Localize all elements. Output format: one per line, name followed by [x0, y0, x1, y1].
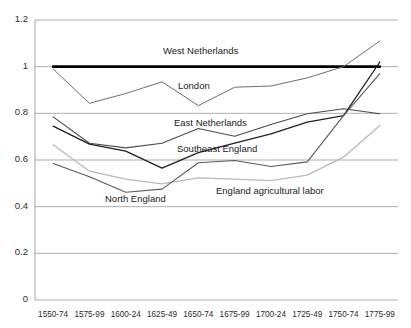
y-axis-tick-label: 1.2	[0, 14, 28, 24]
line-chart: 00.20.40.60.811.21550-741575-991600-2416…	[0, 0, 411, 328]
y-axis-tick-label: 0.8	[0, 107, 28, 117]
y-axis-tick-label: 0.2	[0, 247, 28, 257]
y-axis-tick-label: 0	[0, 294, 28, 304]
x-axis-tick-label: 1775-99	[358, 310, 402, 320]
series-annotation-label: Southeast England	[177, 143, 257, 154]
series-annotation-label: England agricultural labor	[216, 185, 324, 196]
series-annotation-label: East Netherlands	[174, 117, 247, 128]
y-axis-tick-label: 1	[0, 61, 28, 71]
y-axis-tick-label: 0.4	[0, 201, 28, 211]
series-line-england-agricultural-labor	[53, 125, 380, 183]
y-axis-tick-label: 0.6	[0, 154, 28, 164]
series-annotation-label: West Netherlands	[163, 45, 238, 56]
series-annotation-label: North England	[105, 193, 166, 204]
series-line-east-netherlands	[53, 109, 380, 148]
series-annotation-label: London	[178, 80, 210, 91]
